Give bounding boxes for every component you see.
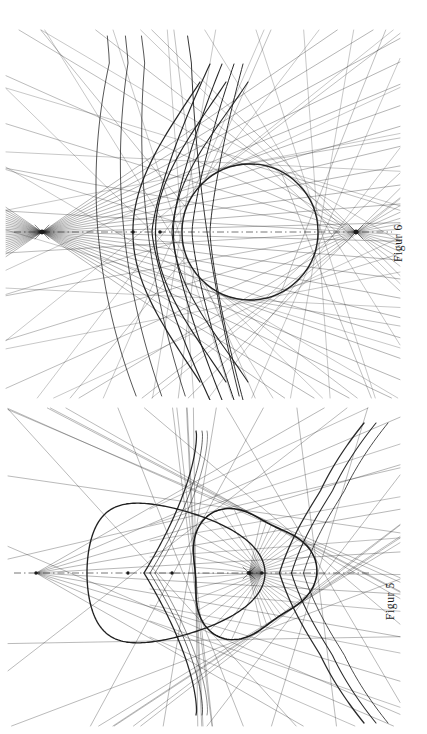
figure-5-drawing [0,390,427,734]
figure-6-drawing [0,0,427,400]
figure-6-vertical-generators [96,36,239,396]
figure-6-tangent-rays [6,30,400,398]
figure-6-caption: Figur 6 [392,224,404,262]
figure-5-caption: Figur 5 [384,582,396,620]
figure-plate: Figur 6 Figur 5 [0,0,427,734]
figure-5-tangent-rays [8,408,400,726]
